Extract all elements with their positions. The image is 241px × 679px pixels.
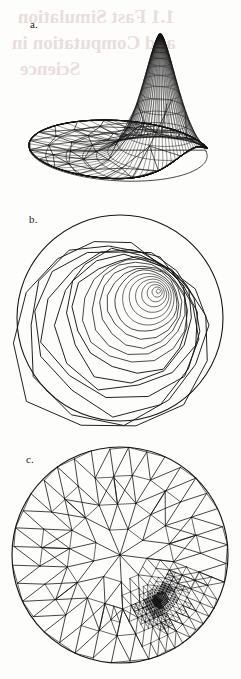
surface-wireframe-svg [0,0,241,210]
panel-b-contour-plot: b. [0,210,241,425]
panel-a-surface-plot: a. [0,0,241,210]
panel-c-adaptive-mesh: c. [0,425,241,679]
triangular-mesh-svg [0,425,241,679]
contour-plot-svg [0,210,241,425]
figure-root: 1.1 Fast Simulation and Computation in S… [0,0,241,679]
